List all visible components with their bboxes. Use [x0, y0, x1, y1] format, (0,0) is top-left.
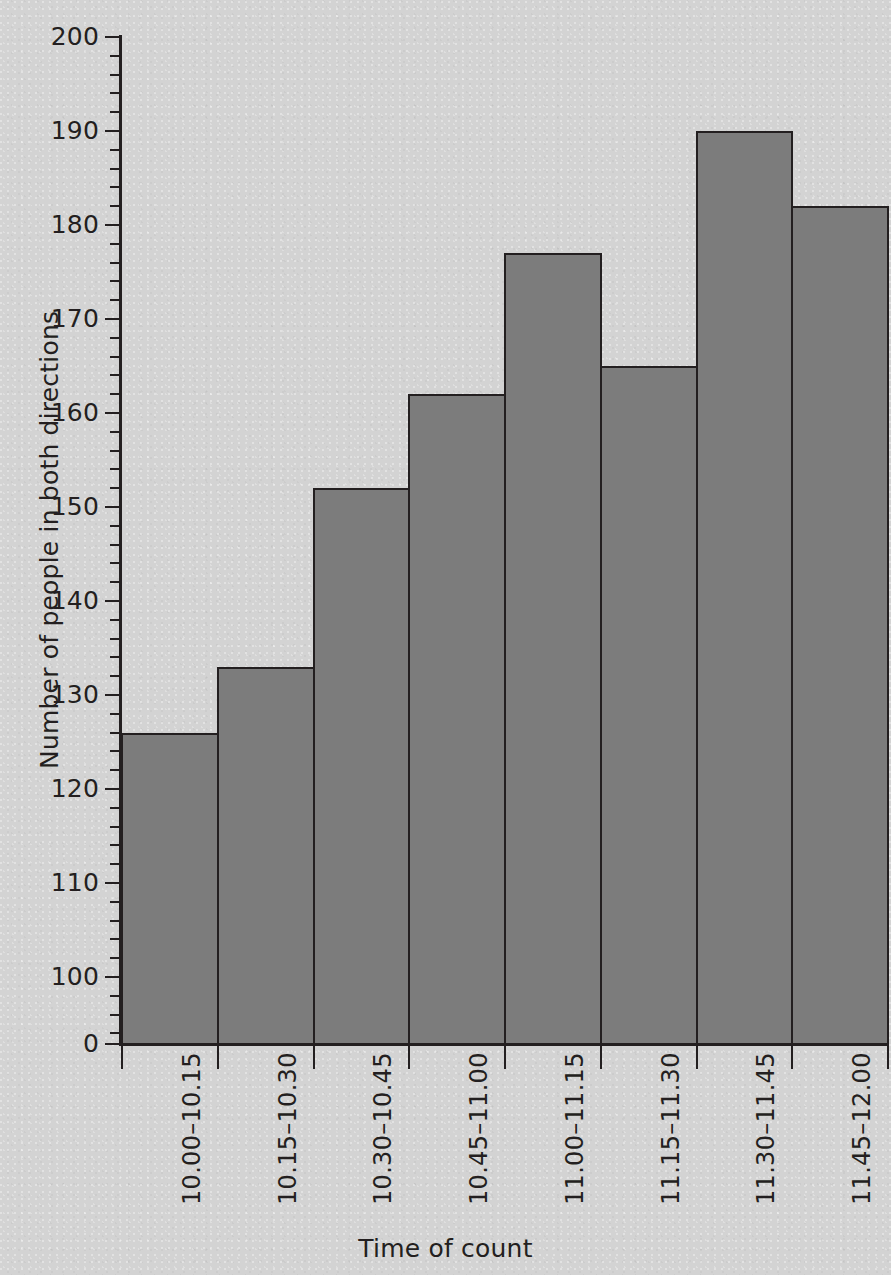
y-axis-minor-tick: [110, 619, 122, 621]
bar: [408, 394, 506, 1045]
y-axis-minor-tick: [110, 450, 122, 452]
y-axis-tick-label-100: 100: [3, 964, 99, 989]
y-axis-tick-110: [105, 882, 122, 884]
y-axis-minor-tick: [110, 374, 122, 376]
x-axis-tick: [217, 1043, 219, 1069]
y-axis-minor-tick: [110, 243, 122, 245]
x-axis-tick: [408, 1043, 410, 1069]
y-axis-tick-label-200: 200: [3, 24, 99, 49]
x-axis-tick: [313, 1043, 315, 1069]
y-axis-minor-tick: [110, 74, 122, 76]
y-axis-tick-label-120: 120: [3, 776, 99, 801]
x-axis-category-label: 11.15–11.30: [658, 1052, 684, 1205]
x-axis-category-label: 10.00–10.15: [179, 1052, 205, 1205]
y-axis-minor-tick: [110, 356, 122, 358]
y-axis-tick-label-190: 190: [3, 118, 99, 143]
y-axis-minor-tick: [110, 299, 122, 301]
y-axis-tick-190: [105, 130, 122, 132]
y-axis-tick-140: [105, 600, 122, 602]
y-axis-minor-tick: [110, 205, 122, 207]
x-axis-category-label: 10.45–11.00: [466, 1052, 492, 1205]
y-axis-minor-tick: [110, 186, 122, 188]
y-axis-tick-label-wrap: 190: [0, 118, 99, 143]
bar: [217, 667, 315, 1045]
y-axis-tick-170: [105, 318, 122, 320]
y-axis-tick-150: [105, 506, 122, 508]
y-axis-tick-130: [105, 694, 122, 696]
y-axis-tick-100: [105, 976, 122, 978]
y-axis-minor-tick: [110, 111, 122, 113]
y-axis-minor-tick: [110, 149, 122, 151]
y-axis-minor-tick: [110, 638, 122, 640]
y-axis-tick-label-wrap: 110: [0, 870, 99, 895]
y-axis-minor-tick: [110, 675, 122, 677]
y-axis-minor-tick: [110, 713, 122, 715]
y-axis-tick-120: [105, 788, 122, 790]
y-axis-tick-180: [105, 224, 122, 226]
y-axis-tick-0: [105, 1043, 122, 1045]
y-axis-minor-tick: [110, 280, 122, 282]
bar: [600, 366, 698, 1045]
x-axis-title: Time of count: [0, 1235, 891, 1263]
x-axis-category-label: 10.30–10.45: [370, 1052, 396, 1205]
x-axis-category-label: 10.15–10.30: [275, 1052, 301, 1205]
y-axis-tick-160: [105, 412, 122, 414]
bar: [121, 733, 219, 1045]
y-axis-tick-label-wrap: 0: [0, 1031, 99, 1056]
y-axis-tick-label-0: 0: [3, 1031, 99, 1056]
y-axis-minor-tick: [110, 544, 122, 546]
y-axis-minor-tick: [110, 487, 122, 489]
x-axis-category-label: 11.30–11.45: [753, 1052, 779, 1205]
y-axis-minor-tick: [110, 393, 122, 395]
y-axis-minor-tick: [110, 581, 122, 583]
x-axis-tick: [600, 1043, 602, 1069]
x-axis-tick: [791, 1043, 793, 1069]
y-axis-tick-label-wrap: 200: [0, 24, 99, 49]
bar-chart: 2001901801701601501401301201101000 10.00…: [0, 0, 891, 1275]
y-axis-minor-tick: [110, 562, 122, 564]
bar: [791, 206, 889, 1045]
y-axis-tick-200: [105, 36, 122, 38]
y-axis-title: Number of people in both directions: [36, 311, 63, 769]
y-axis-minor-tick: [110, 92, 122, 94]
y-axis-tick-label-wrap: 100: [0, 964, 99, 989]
y-axis-minor-tick: [110, 431, 122, 433]
x-axis-tick: [696, 1043, 698, 1069]
y-axis-tick-label-110: 110: [3, 870, 99, 895]
bar: [696, 131, 794, 1045]
y-axis-minor-tick: [110, 525, 122, 527]
x-axis-category-label: 11.00–11.15: [562, 1052, 588, 1205]
y-axis-minor-tick: [110, 262, 122, 264]
y-axis-tick-label-wrap: 180: [0, 212, 99, 237]
bar: [504, 253, 602, 1045]
x-axis-category-label: 11.45–12.00: [849, 1052, 875, 1205]
y-axis-tick-label-180: 180: [3, 212, 99, 237]
y-axis-minor-tick: [110, 337, 122, 339]
x-axis-tick: [887, 1043, 889, 1069]
y-axis-minor-tick: [110, 168, 122, 170]
y-axis-minor-tick: [110, 656, 122, 658]
y-axis-tick-label-wrap: 120: [0, 776, 99, 801]
x-axis-tick: [504, 1043, 506, 1069]
x-axis-tick: [121, 1043, 123, 1069]
y-axis-minor-tick: [110, 55, 122, 57]
bar: [313, 488, 411, 1045]
y-axis-minor-tick: [110, 468, 122, 470]
